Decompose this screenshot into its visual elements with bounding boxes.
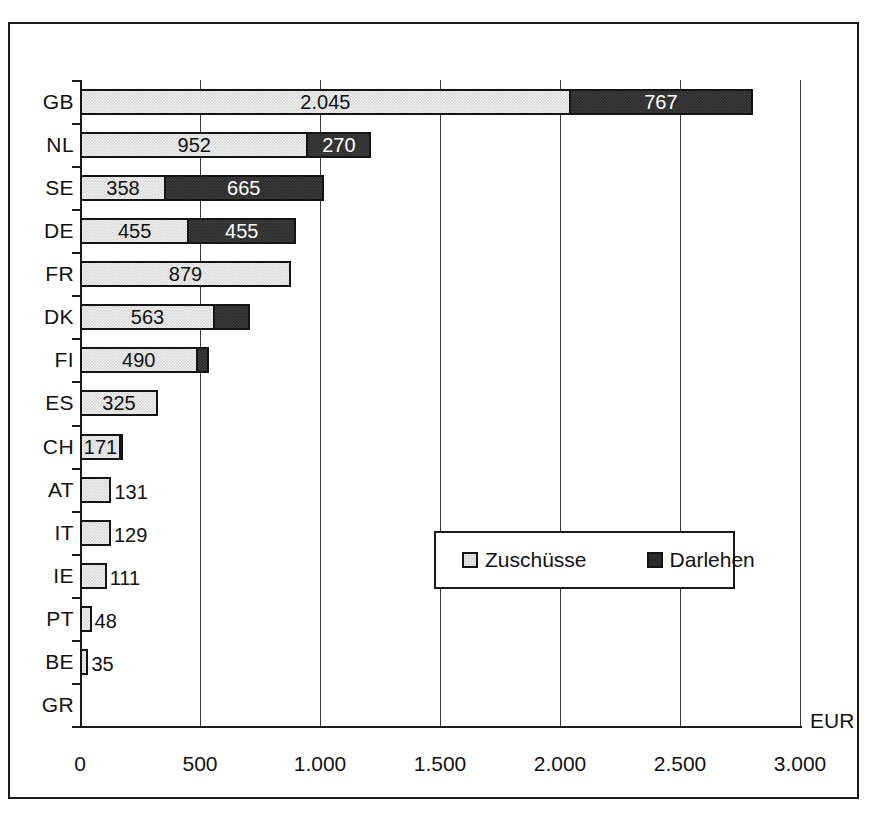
category-label-gb: GB bbox=[0, 80, 74, 123]
bar-segment-darlehen[interactable] bbox=[213, 304, 250, 330]
bar-segment-darlehen[interactable]: 767 bbox=[569, 89, 753, 115]
x-tick-label: 3.000 bbox=[740, 752, 860, 776]
stacked-bar[interactable]: 952270 bbox=[80, 132, 371, 158]
stacked-bar[interactable]: 131 bbox=[80, 477, 111, 503]
category-label-at: AT bbox=[0, 468, 74, 511]
stacked-bar[interactable]: 879 bbox=[80, 261, 291, 287]
x-tick-label: 1.500 bbox=[380, 752, 500, 776]
bar-row: GB2.045767 bbox=[80, 80, 800, 123]
chart-page: GB2.045767NL952270SE358665DE455455FR879D… bbox=[0, 0, 869, 815]
category-label-es: ES bbox=[0, 381, 74, 424]
stacked-bar[interactable]: 490 bbox=[80, 347, 209, 373]
bar-segment-zuschuesse[interactable]: 325 bbox=[80, 390, 158, 416]
bar-row: FI490 bbox=[80, 338, 800, 381]
chart-outer-frame: GB2.045767NL952270SE358665DE455455FR879D… bbox=[8, 22, 859, 799]
category-label-fr: FR bbox=[0, 252, 74, 295]
bar-segment-zuschuesse[interactable]: 358 bbox=[80, 175, 166, 201]
bar-segment-zuschuesse[interactable]: 111 bbox=[80, 563, 107, 589]
legend-label: Zuschüsse bbox=[485, 548, 587, 572]
category-label-fi: FI bbox=[0, 338, 74, 381]
legend-label: Darlehen bbox=[670, 548, 755, 572]
bar-segment-zuschuesse[interactable]: 129 bbox=[80, 520, 111, 546]
x-tick-label: 2.000 bbox=[500, 752, 620, 776]
x-tick-label: 2.500 bbox=[620, 752, 740, 776]
bar-value-label: 35 bbox=[91, 651, 113, 677]
legend-swatch-icon bbox=[462, 552, 478, 568]
bar-value-label: 131 bbox=[114, 479, 147, 505]
category-label-nl: NL bbox=[0, 123, 74, 166]
bar-segment-zuschuesse[interactable]: 171 bbox=[80, 434, 121, 460]
bar-segment-zuschuesse[interactable]: 2.045 bbox=[80, 89, 571, 115]
bar-row: CH171 bbox=[80, 425, 800, 468]
bar-segment-darlehen[interactable]: 270 bbox=[306, 132, 371, 158]
category-label-pt: PT bbox=[0, 597, 74, 640]
category-label-se: SE bbox=[0, 166, 74, 209]
category-label-it: IT bbox=[0, 511, 74, 554]
bar-value-label: 270 bbox=[322, 135, 355, 155]
stacked-bar[interactable]: 358665 bbox=[80, 175, 324, 201]
bar-row: AT131 bbox=[80, 468, 800, 511]
legend-item-darlehen[interactable]: Darlehen bbox=[647, 548, 755, 572]
bar-row: SE358665 bbox=[80, 166, 800, 209]
bar-value-label: 111 bbox=[110, 565, 140, 591]
y-tick bbox=[72, 726, 81, 728]
bar-value-label: 358 bbox=[106, 178, 139, 198]
bar-row: DE455455 bbox=[80, 209, 800, 252]
bar-value-label: 665 bbox=[227, 178, 260, 198]
category-label-be: BE bbox=[0, 640, 74, 683]
bar-value-label: 325 bbox=[102, 393, 135, 413]
bar-row: NL952270 bbox=[80, 123, 800, 166]
bar-row: BE35 bbox=[80, 640, 800, 683]
bar-segment-zuschuesse[interactable]: 131 bbox=[80, 477, 111, 503]
bar-segment-zuschuesse[interactable]: 879 bbox=[80, 261, 291, 287]
category-label-ie: IE bbox=[0, 554, 74, 597]
bar-value-label: 490 bbox=[122, 350, 155, 370]
bar-segment-zuschuesse[interactable]: 48 bbox=[80, 606, 92, 632]
category-label-de: DE bbox=[0, 209, 74, 252]
bar-value-label: 455 bbox=[225, 221, 258, 241]
bar-row: FR879 bbox=[80, 252, 800, 295]
bar-segment-darlehen[interactable] bbox=[196, 347, 209, 373]
bar-segment-zuschuesse[interactable]: 952 bbox=[80, 132, 308, 158]
bar-value-label: 2.045 bbox=[300, 92, 350, 112]
bar-value-label: 455 bbox=[118, 221, 151, 241]
bar-value-label: 952 bbox=[178, 135, 211, 155]
legend-item-zuschuesse[interactable]: Zuschüsse bbox=[462, 548, 587, 572]
bar-row: PT48 bbox=[80, 597, 800, 640]
stacked-bar[interactable]: 48 bbox=[80, 606, 92, 632]
stacked-bar[interactable]: 171 bbox=[80, 434, 123, 460]
category-label-dk: DK bbox=[0, 295, 74, 338]
stacked-bar[interactable]: 325 bbox=[80, 390, 158, 416]
bar-value-label: 48 bbox=[95, 608, 117, 634]
category-label-gr: GR bbox=[0, 683, 74, 726]
stacked-bar[interactable]: 129 bbox=[80, 520, 111, 546]
x-tick-label: 500 bbox=[140, 752, 260, 776]
legend-swatch-icon bbox=[647, 552, 663, 568]
stacked-bar[interactable]: 2.045767 bbox=[80, 89, 753, 115]
bar-value-label: 767 bbox=[644, 92, 677, 112]
bar-row: DK563 bbox=[80, 295, 800, 338]
category-label-ch: CH bbox=[0, 425, 74, 468]
x-axis-unit-label: EUR bbox=[810, 709, 854, 733]
stacked-bar[interactable]: 35 bbox=[80, 649, 88, 675]
gridline-3000 bbox=[800, 80, 801, 726]
x-tick-label: 0 bbox=[20, 752, 140, 776]
stacked-bar[interactable]: 111 bbox=[80, 563, 107, 589]
bar-segment-zuschuesse[interactable]: 35 bbox=[80, 649, 88, 675]
bar-segment-zuschuesse[interactable]: 563 bbox=[80, 304, 215, 330]
bar-row: ES325 bbox=[80, 381, 800, 424]
bar-value-label: 129 bbox=[114, 522, 147, 548]
x-axis-line bbox=[80, 726, 802, 728]
bar-segment-zuschuesse[interactable]: 490 bbox=[80, 347, 198, 373]
bar-segment-zuschuesse[interactable]: 455 bbox=[80, 218, 189, 244]
chart-legend: ZuschüsseDarlehen bbox=[434, 531, 735, 589]
stacked-bar[interactable]: 563 bbox=[80, 304, 250, 330]
bar-value-label: 879 bbox=[169, 264, 202, 284]
stacked-bar[interactable]: 455455 bbox=[80, 218, 296, 244]
bar-row: GR bbox=[80, 683, 800, 726]
bar-segment-darlehen[interactable]: 665 bbox=[164, 175, 324, 201]
bar-value-label: 171 bbox=[84, 437, 117, 457]
bar-value-label: 563 bbox=[131, 307, 164, 327]
bar-segment-darlehen[interactable]: 455 bbox=[187, 218, 296, 244]
bar-segment-darlehen[interactable] bbox=[119, 434, 123, 460]
